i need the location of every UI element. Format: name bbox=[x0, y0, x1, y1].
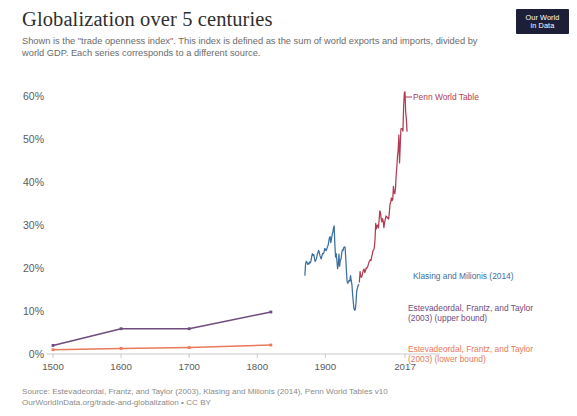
chart-page: Globalization over 5 centuries Shown is … bbox=[0, 0, 577, 416]
series-line-klasing_milionis[interactable] bbox=[305, 226, 359, 310]
y-axis-tick-label: 10% bbox=[23, 305, 44, 317]
x-axis-tick-label: 1900 bbox=[315, 361, 337, 372]
x-axis-tick-label: 1500 bbox=[42, 361, 64, 372]
chart-subtitle: Shown is the "trade openness index". Thi… bbox=[22, 35, 492, 61]
logo-line-2: in Data bbox=[531, 22, 555, 30]
data-point-eft_upper[interactable] bbox=[120, 327, 123, 330]
legend-label-eft_upper[interactable]: Estevadeordal, Frantz, and Taylor bbox=[408, 303, 533, 313]
y-axis-tick-label: 40% bbox=[23, 176, 44, 188]
x-axis-tick-label: 1700 bbox=[178, 361, 200, 372]
our-world-in-data-logo[interactable]: Our World in Data bbox=[516, 9, 569, 34]
legend-label-eft_lower[interactable]: Estevadeordal, Frantz, and Taylor bbox=[408, 344, 533, 354]
source-text: Source: Estevadeordal, Frantz, and Taylo… bbox=[22, 386, 388, 398]
y-axis-tick-label: 20% bbox=[23, 262, 44, 274]
x-axis-tick-label: 1600 bbox=[110, 361, 132, 372]
data-point-eft_upper[interactable] bbox=[269, 311, 272, 314]
legend-label-klasing_milionis[interactable]: Klasing and Milionis (2014) bbox=[413, 271, 514, 281]
chart-header: Globalization over 5 centuries Shown is … bbox=[22, 8, 567, 60]
data-point-eft_lower[interactable] bbox=[188, 346, 191, 349]
data-point-eft_lower[interactable] bbox=[120, 347, 123, 350]
legend-label-eft_lower[interactable]: (2003) (lower bound) bbox=[408, 354, 486, 364]
legend-label-penn_world_table[interactable]: Penn World Table bbox=[413, 92, 479, 102]
series-line-eft_lower[interactable] bbox=[53, 345, 271, 350]
data-point-eft_upper[interactable] bbox=[188, 327, 191, 330]
data-point-eft_lower[interactable] bbox=[269, 344, 272, 347]
y-axis-tick-label: 60% bbox=[23, 90, 44, 102]
chart-plot-area: 0%10%20%30%40%50%60%15001600170018001900… bbox=[0, 66, 577, 376]
data-point-eft_lower[interactable] bbox=[52, 348, 55, 351]
chart-footer: Source: Estevadeordal, Frantz, and Taylo… bbox=[22, 386, 388, 409]
line-chart-svg[interactable]: 0%10%20%30%40%50%60%15001600170018001900… bbox=[0, 66, 577, 376]
page-title: Globalization over 5 centuries bbox=[22, 8, 567, 31]
y-axis-tick-label: 30% bbox=[23, 219, 44, 231]
series-line-eft_upper[interactable] bbox=[53, 312, 271, 345]
data-point-eft_upper[interactable] bbox=[52, 344, 55, 347]
legend-label-eft_upper[interactable]: (2003) (upper bound) bbox=[408, 313, 487, 323]
y-axis-tick-label: 50% bbox=[23, 133, 44, 145]
y-axis-tick-label: 0% bbox=[29, 348, 44, 360]
series-line-penn_world_table[interactable] bbox=[359, 92, 407, 282]
license-text[interactable]: OurWorldInData.org/trade-and-globalizati… bbox=[22, 397, 388, 409]
x-axis-tick-label: 1800 bbox=[246, 361, 268, 372]
